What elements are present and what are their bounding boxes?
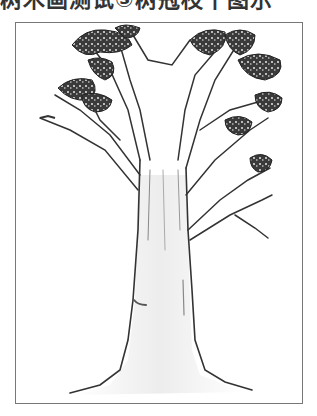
trunk-shade (75, 175, 245, 395)
tree-drawing (0, 0, 317, 416)
twig (40, 116, 55, 118)
leaf-cluster (190, 30, 225, 55)
leaf-cluster (82, 93, 112, 112)
leaf-clusters (58, 25, 282, 172)
leaf-cluster (88, 58, 114, 80)
leaf-cluster (255, 92, 282, 112)
leaf-cluster (238, 54, 281, 80)
leaf-cluster (225, 30, 255, 55)
